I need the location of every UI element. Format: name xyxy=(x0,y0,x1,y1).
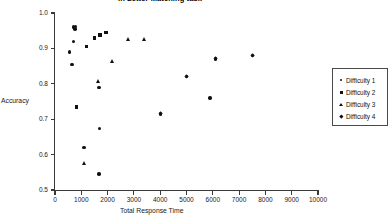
x-tick xyxy=(239,191,240,195)
y-tick-label: 1.0 xyxy=(24,9,48,16)
diamond-marker-icon xyxy=(337,115,345,118)
legend-item-4[interactable]: Difficulty 4 xyxy=(337,110,387,122)
circle-marker-icon xyxy=(337,79,345,82)
y-tick-label: 0.9 xyxy=(24,44,48,51)
data-point xyxy=(85,45,89,49)
y-tick-label: 0.7 xyxy=(24,115,48,122)
data-point xyxy=(72,40,75,43)
x-tick xyxy=(107,191,108,195)
data-point xyxy=(126,37,130,41)
x-tick xyxy=(265,191,266,195)
data-point xyxy=(104,31,108,35)
y-tick-label: 0.8 xyxy=(24,80,48,87)
legend-label: Difficulty 3 xyxy=(346,101,375,108)
x-tick xyxy=(291,191,292,195)
data-point xyxy=(98,33,102,37)
square-marker-icon xyxy=(337,91,345,94)
data-point xyxy=(142,37,146,41)
x-tick xyxy=(81,191,82,195)
legend-item-3[interactable]: Difficulty 3 xyxy=(337,98,387,110)
legend-item-1[interactable]: Difficulty 1 xyxy=(337,74,387,86)
x-tick xyxy=(212,191,213,195)
x-tick xyxy=(186,191,187,195)
y-tick-label: 0.6 xyxy=(24,151,48,158)
chart-legend: Difficulty 1Difficulty 2Difficulty 3Diff… xyxy=(332,68,388,126)
legend-item-2[interactable]: Difficulty 2 xyxy=(337,86,387,98)
data-point xyxy=(97,172,100,175)
data-point xyxy=(75,105,79,109)
legend-label: Difficulty 4 xyxy=(346,113,375,120)
x-tick xyxy=(160,191,161,195)
x-tick-label: 10000 xyxy=(302,196,334,203)
legend-label: Difficulty 1 xyxy=(346,77,375,84)
data-point xyxy=(208,96,211,99)
data-point xyxy=(97,86,100,89)
chart-title: in Letter Matching task xyxy=(0,0,320,3)
x-axis-label: Total Response Time xyxy=(120,207,183,214)
triangle-marker-icon xyxy=(337,103,345,106)
data-point xyxy=(70,63,73,66)
y-tick-label: 0.5 xyxy=(24,186,48,193)
legend-label: Difficulty 2 xyxy=(346,89,375,96)
x-tick xyxy=(317,191,318,195)
data-point xyxy=(96,79,100,83)
y-axis-label: Accuracy xyxy=(1,97,29,104)
data-point xyxy=(93,36,97,40)
data-point xyxy=(82,161,86,165)
data-point xyxy=(110,59,114,63)
data-point xyxy=(82,146,85,149)
x-tick xyxy=(133,191,134,195)
x-tick xyxy=(54,191,55,195)
